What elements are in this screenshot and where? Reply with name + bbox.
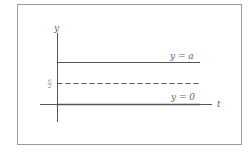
label-a-half-denominator: 2 xyxy=(47,83,51,89)
t-axis-label: t xyxy=(217,99,221,109)
label-y-equals-0: y = 0 xyxy=(170,92,195,102)
label-y-equals-a: y = a xyxy=(169,51,194,61)
y-axis-label: y xyxy=(53,23,60,33)
diagram: y t y = a y = 0 a 2 xyxy=(0,0,250,155)
